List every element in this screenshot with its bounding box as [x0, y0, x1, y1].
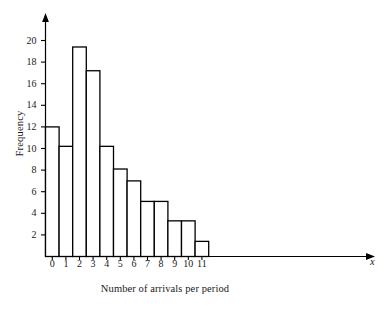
y-axis-tick-label: 20	[15, 36, 37, 46]
x-axis-title: Number of arrivals per period	[0, 283, 330, 294]
histogram-chart: 2468101214161820 01234567891011 Frequenc…	[0, 0, 388, 312]
y-axis-tick-label: 4	[15, 208, 37, 218]
histogram-bar	[46, 127, 60, 257]
x-axis-tick-label: 11	[192, 259, 212, 269]
x-axis-variable-label: x	[370, 256, 375, 267]
histogram-bars	[46, 47, 209, 257]
histogram-bar	[114, 169, 128, 256]
y-axis-arrowhead	[42, 13, 49, 22]
y-axis-tick-marks	[41, 41, 46, 235]
histogram-bar	[168, 221, 182, 257]
histogram-bar	[195, 241, 209, 256]
y-axis-tick-label: 6	[15, 187, 37, 197]
histogram-bar	[141, 201, 155, 256]
y-axis-tick-label: 16	[15, 79, 37, 89]
histogram-bar	[154, 201, 168, 256]
histogram-bar	[59, 146, 73, 256]
y-axis-tick-label: 18	[15, 57, 37, 67]
histogram-bar	[127, 181, 141, 257]
histogram-bar	[86, 71, 100, 257]
histogram-bar	[73, 47, 87, 257]
histogram-bar	[182, 221, 196, 257]
y-axis-tick-label: 2	[15, 230, 37, 240]
histogram-bar	[100, 146, 114, 256]
y-axis-title: Frequency	[14, 89, 25, 179]
